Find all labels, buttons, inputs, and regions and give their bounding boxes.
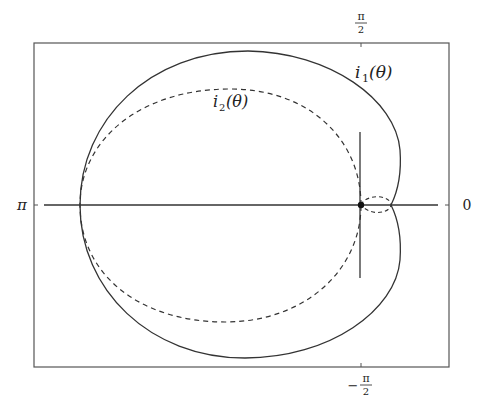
polar-diagram: i 1 (θ) i 2 (θ) π 2 − π 2 π 0 — [0, 0, 485, 413]
svg-text:2: 2 — [363, 386, 369, 397]
svg-text:π: π — [357, 10, 364, 23]
axis-label-right: 0 — [463, 197, 472, 213]
svg-text:2: 2 — [358, 24, 364, 35]
label-i2: i 2 (θ) — [213, 92, 248, 113]
svg-text:i: i — [213, 92, 218, 111]
svg-text:1: 1 — [362, 72, 369, 85]
svg-text:2: 2 — [219, 102, 225, 113]
svg-text:(θ): (θ) — [369, 62, 393, 82]
diagram-canvas: i 1 (θ) i 2 (θ) π 2 − π 2 π 0 — [0, 0, 485, 413]
svg-text:i: i — [355, 62, 360, 82]
axis-label-left: π — [16, 196, 28, 214]
svg-text:(θ): (θ) — [226, 92, 248, 111]
svg-text:−: − — [348, 378, 359, 393]
svg-text:π: π — [362, 372, 369, 385]
axis-label-top: π 2 — [355, 10, 367, 35]
label-i1: i 1 (θ) — [355, 62, 393, 85]
origin-point — [358, 202, 364, 208]
axis-label-bottom: − π 2 — [348, 372, 372, 397]
